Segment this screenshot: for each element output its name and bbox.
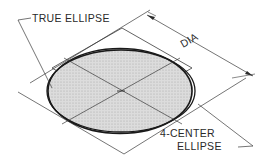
dia-label: DIA [178, 30, 200, 50]
extension-line [148, 12, 156, 16]
four-center-label-line2: ELLIPSE [177, 140, 222, 152]
diagram-canvas: DIA TRUE ELLIPSE 4-CENTER ELLIPSE [0, 0, 269, 162]
four-center-label-line1: 4-CENTER [160, 127, 215, 139]
true-ellipse-leader [18, 18, 52, 88]
true-ellipse-label: TRUE ELLIPSE [32, 12, 110, 24]
extension-line [232, 74, 255, 78]
isometric-ellipse-diagram: DIA TRUE ELLIPSE 4-CENTER ELLIPSE [0, 0, 269, 162]
